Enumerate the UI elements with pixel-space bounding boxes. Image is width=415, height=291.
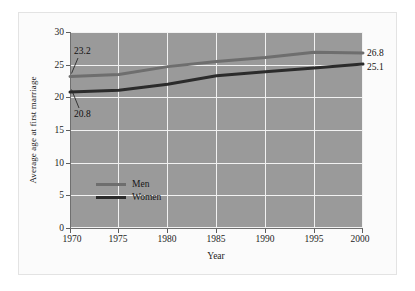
series-line-women — [70, 64, 363, 92]
x-tick-mark — [265, 229, 266, 233]
legend-item-men: Men — [96, 178, 176, 191]
legend-swatch-women — [96, 196, 126, 199]
y-axis-title: Average age at first marriage — [28, 76, 38, 183]
y-tick-label-20: 20 — [55, 93, 65, 103]
x-tick-label-1995: 1995 — [305, 235, 324, 245]
annotation-women-end-value: 25.1 — [367, 63, 384, 73]
chart-legend: Men Women — [96, 178, 176, 204]
x-tick-mark — [70, 229, 71, 233]
chart-figure: 30 25 20 15 10 5 0 1970 1975 1980 1985 1… — [0, 0, 415, 291]
x-axis-title: Year — [207, 251, 225, 261]
x-tick-label-1990: 1990 — [256, 235, 275, 245]
legend-item-women: Women — [96, 191, 176, 204]
x-tick-label-1985: 1985 — [207, 235, 226, 245]
y-tick-label-0: 0 — [59, 224, 64, 234]
x-tick-mark — [314, 229, 315, 233]
x-tick-label-1980: 1980 — [158, 235, 177, 245]
legend-swatch-men — [96, 183, 126, 186]
x-tick-label-1975: 1975 — [109, 235, 128, 245]
x-tick-label-2000: 2000 — [351, 235, 370, 245]
x-tick-mark — [118, 229, 119, 233]
x-tick-mark — [216, 229, 217, 233]
y-tick-label-5: 5 — [59, 191, 64, 201]
legend-label-men: Men — [132, 180, 149, 190]
y-tick-label-10: 10 — [55, 159, 65, 169]
y-tick-label-15: 15 — [55, 126, 65, 136]
y-tick-label-30: 30 — [55, 28, 65, 38]
annotation-men-end-value: 26.8 — [367, 49, 384, 59]
y-tick-label-25: 25 — [55, 61, 65, 71]
series-line-men — [70, 52, 363, 76]
x-tick-label-1970: 1970 — [63, 235, 82, 245]
x-tick-mark — [362, 229, 363, 233]
annotation-men-start-value: 23.2 — [74, 47, 91, 57]
legend-label-women: Women — [132, 193, 161, 203]
annotation-women-start-value: 20.8 — [74, 110, 91, 120]
x-tick-mark — [167, 229, 168, 233]
